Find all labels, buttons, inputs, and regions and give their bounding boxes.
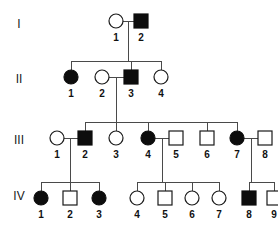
individual-iii-6-male-unaffected xyxy=(200,131,214,145)
individual-number-iv-7: 7 xyxy=(216,209,222,220)
individual-number-iv-4: 4 xyxy=(134,209,140,220)
connection-lines-layer xyxy=(41,21,274,191)
individual-number-iv-6: 6 xyxy=(189,209,195,220)
individual-number-iv-9: 9 xyxy=(271,209,277,220)
individual-iii-2-male-affected xyxy=(78,131,92,145)
individual-ii-3-male-affected xyxy=(124,70,138,84)
individual-iii-1-female-unaffected xyxy=(50,131,64,145)
individual-iv-5-male-unaffected xyxy=(158,191,172,205)
generation-label-iv: IV xyxy=(13,189,24,203)
individual-number-iii-7: 7 xyxy=(234,149,240,160)
pedigree-chart: 12123412345678123456789 IIIIIIIV xyxy=(0,0,278,232)
individual-symbols-layer xyxy=(34,14,278,205)
individual-number-iii-8: 8 xyxy=(262,149,268,160)
individual-iii-3-female-unaffected xyxy=(109,131,123,145)
individual-iii-7-female-affected xyxy=(230,131,244,145)
individual-iv-6-female-unaffected xyxy=(185,191,199,205)
individual-number-iii-2: 2 xyxy=(82,149,88,160)
individual-ii-4-female-unaffected xyxy=(154,70,168,84)
individual-number-iv-1: 1 xyxy=(38,209,44,220)
individual-i-1-female-unaffected xyxy=(109,14,123,28)
individual-number-iv-8: 8 xyxy=(246,209,252,220)
individual-number-ii-4: 4 xyxy=(158,88,164,99)
individual-iv-1-female-affected xyxy=(34,191,48,205)
individual-number-i-2: 2 xyxy=(138,32,144,43)
individual-iv-2-male-unaffected xyxy=(63,191,77,205)
individual-iii-8-male-unaffected xyxy=(258,131,272,145)
generation-label-iii: III xyxy=(14,133,24,147)
individual-number-iii-6: 6 xyxy=(204,149,210,160)
individual-ii-2-female-unaffected xyxy=(95,70,109,84)
generation-label-ii: II xyxy=(16,72,23,86)
individual-i-2-male-affected xyxy=(134,14,148,28)
generation-labels-layer: IIIIIIIV xyxy=(13,17,24,203)
individual-number-iv-5: 5 xyxy=(162,209,168,220)
individual-iv-3-female-affected xyxy=(92,191,106,205)
individual-iv-4-female-unaffected xyxy=(130,191,144,205)
individual-iv-8-male-affected xyxy=(242,191,256,205)
individual-number-ii-3: 3 xyxy=(128,88,134,99)
individual-number-ii-1: 1 xyxy=(68,88,74,99)
individual-iii-4-female-affected xyxy=(141,131,155,145)
individual-number-ii-2: 2 xyxy=(99,88,105,99)
individual-number-iii-3: 3 xyxy=(113,149,119,160)
individual-number-iii-1: 1 xyxy=(54,149,60,160)
individual-number-iv-2: 2 xyxy=(67,209,73,220)
individual-iv-9-male-unaffected xyxy=(267,191,278,205)
individual-iv-7-female-unaffected xyxy=(212,191,226,205)
individual-iii-5-male-unaffected xyxy=(169,131,183,145)
generation-label-i: I xyxy=(17,17,20,31)
individual-number-i-1: 1 xyxy=(113,32,119,43)
pedigree-diagram: 12123412345678123456789 IIIIIIIV xyxy=(0,0,278,232)
individual-ii-1-female-affected xyxy=(64,70,78,84)
individual-number-iv-3: 3 xyxy=(96,209,102,220)
individual-number-iii-4: 4 xyxy=(145,149,151,160)
individual-number-iii-5: 5 xyxy=(173,149,179,160)
